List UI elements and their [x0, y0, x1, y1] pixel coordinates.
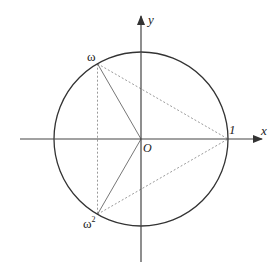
- dashed-edge-omega-one: [98, 64, 229, 139]
- point-omega-label: ω: [87, 49, 96, 64]
- omega2-superscript: 2: [92, 215, 96, 224]
- origin-label: O: [143, 141, 152, 155]
- unit-circle-diagram: x y O 1 ω ω2: [0, 0, 279, 277]
- radius-omega2: [98, 139, 142, 214]
- point-one-label: 1: [229, 122, 236, 137]
- point-omega2-label: ω2: [83, 215, 96, 231]
- radius-omega: [98, 64, 142, 139]
- dashed-edge-omega2-one: [98, 139, 229, 214]
- y-axis-label: y: [146, 12, 154, 27]
- x-axis-label: x: [260, 123, 267, 138]
